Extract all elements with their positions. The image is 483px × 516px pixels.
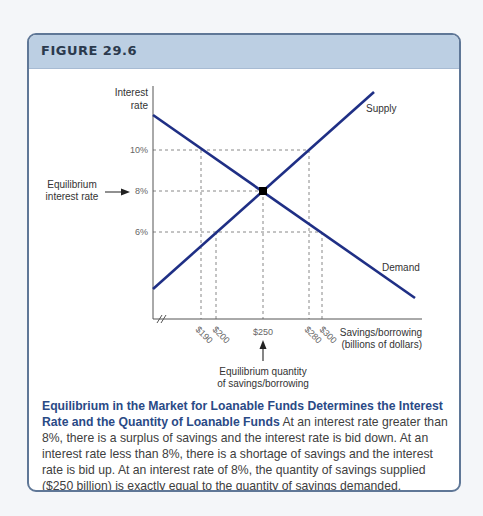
y-tick-10: 10% <box>130 145 148 155</box>
x-tick-190: $190 <box>194 324 215 345</box>
y-axis-title-1: Interest <box>115 87 149 98</box>
figure-caption: Equilibrium in the Market for Loanable F… <box>42 398 450 492</box>
demand-curve <box>153 115 415 298</box>
demand-label: Demand <box>382 262 420 273</box>
eq-qty-label-1: Equilibrium quantity <box>219 366 306 377</box>
y-tick-6: 6% <box>135 227 148 237</box>
y-axis-title-2: rate <box>131 100 149 111</box>
x-tick-250: $250 <box>253 327 273 337</box>
eq-rate-label-1: Equilibrium <box>47 179 96 190</box>
equilibrium-point <box>259 187 267 195</box>
y-tick-8: 8% <box>135 186 148 196</box>
supply-label: Supply <box>366 103 397 114</box>
loanable-funds-chart: Interest rate 10% 8% 6% Equilibrium inte… <box>29 35 461 395</box>
eq-qty-arrow-icon <box>260 340 267 361</box>
x-tick-200: $200 <box>211 324 232 345</box>
x-axis-title-1: Savings/borrowing <box>340 327 422 338</box>
eq-qty-label-2: of savings/borrowing <box>217 378 309 389</box>
eq-rate-label-2: interest rate <box>46 191 99 202</box>
eq-rate-arrow-icon <box>105 189 130 196</box>
figure-box: FIGURE 29.6 Interest rate 10% <box>27 33 461 492</box>
x-axis-title-2: (billions of dollars) <box>341 339 422 350</box>
